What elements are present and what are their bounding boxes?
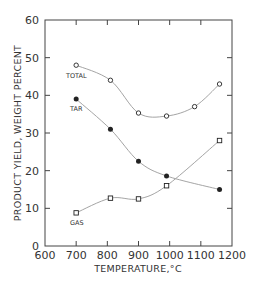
data-markers bbox=[74, 63, 222, 215]
marker-gas bbox=[108, 196, 112, 200]
marker-total bbox=[108, 78, 112, 82]
x-tick-label: 1200 bbox=[218, 249, 246, 262]
plot-border bbox=[45, 20, 232, 246]
product-yield-chart: 6007008009001000110012000102030405060 TO… bbox=[0, 0, 255, 290]
marker-tar bbox=[74, 97, 79, 102]
series-label-total: TOTAL bbox=[65, 72, 87, 80]
y-tick-label: 30 bbox=[25, 127, 39, 140]
marker-gas bbox=[164, 184, 168, 188]
x-tick-label: 1100 bbox=[187, 249, 215, 262]
marker-gas bbox=[136, 197, 140, 201]
y-tick-label: 60 bbox=[25, 14, 39, 27]
marker-tar bbox=[136, 159, 141, 164]
curve-gas bbox=[76, 141, 219, 213]
marker-gas bbox=[74, 211, 78, 215]
curve-tar bbox=[76, 99, 219, 189]
y-tick-label: 10 bbox=[25, 202, 39, 215]
x-tick-label: 1000 bbox=[156, 249, 184, 262]
x-tick-label: 900 bbox=[128, 249, 149, 262]
marker-total bbox=[136, 111, 140, 115]
marker-tar bbox=[217, 187, 222, 192]
series-label-gas: GAS bbox=[70, 219, 84, 227]
y-tick-label: 0 bbox=[32, 240, 39, 253]
marker-total bbox=[192, 104, 196, 108]
marker-total bbox=[217, 82, 221, 86]
series-label-tar: TAR bbox=[69, 105, 83, 113]
y-tick-label: 40 bbox=[25, 89, 39, 102]
x-axis-label: TEMPERATURE,°C bbox=[93, 263, 182, 274]
x-tick-label: 700 bbox=[66, 249, 87, 262]
marker-tar bbox=[164, 173, 169, 178]
marker-gas bbox=[217, 138, 221, 142]
marker-tar bbox=[108, 127, 113, 132]
marker-total bbox=[164, 114, 168, 118]
plot-frame bbox=[45, 20, 232, 246]
curve-total bbox=[76, 65, 219, 117]
y-tick-label: 20 bbox=[25, 165, 39, 178]
marker-total bbox=[74, 63, 78, 67]
axis-ticks: 6007008009001000110012000102030405060 bbox=[25, 14, 246, 262]
y-tick-label: 50 bbox=[25, 52, 39, 65]
x-tick-label: 800 bbox=[97, 249, 118, 262]
y-axis-label: PRODUCT YIELD, WEIGHT PERCENT bbox=[12, 45, 23, 221]
fitted-curves bbox=[76, 65, 219, 213]
